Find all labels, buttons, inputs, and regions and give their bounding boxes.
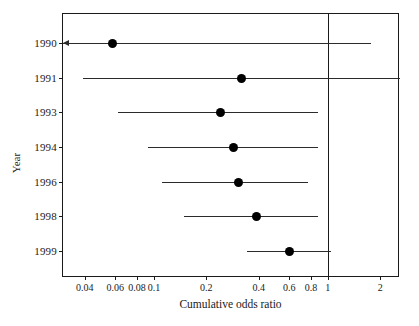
x-axis-tick xyxy=(115,276,116,280)
x-axis-tick xyxy=(85,276,86,280)
odds-ratio-point-marker xyxy=(285,247,294,256)
y-axis-tick-label: 1991 xyxy=(34,72,57,84)
y-axis-tick xyxy=(59,112,63,113)
x-axis-tick-label: 0.2 xyxy=(200,282,213,293)
x-axis-title: Cumulative odds ratio xyxy=(62,298,399,310)
x-axis-tick xyxy=(380,276,381,280)
x-axis-tick xyxy=(137,276,138,280)
x-axis-tick xyxy=(154,276,155,280)
forest-plot-figure: Year 1990199119931994199619981999 0.040.… xyxy=(0,0,419,326)
y-axis-title: Year xyxy=(10,153,22,173)
x-axis-tick-label: 0.04 xyxy=(76,282,94,293)
y-axis-tick xyxy=(59,78,63,79)
x-axis-tick-label: 1 xyxy=(325,282,330,293)
y-axis-tick xyxy=(59,147,63,148)
x-axis-tick-label: 0.1 xyxy=(148,282,161,293)
odds-ratio-point-marker xyxy=(108,39,117,48)
y-axis-tick-label: 1993 xyxy=(34,106,57,118)
confidence-interval-line xyxy=(184,216,319,217)
x-axis-tick xyxy=(311,276,312,280)
y-axis-tick xyxy=(59,251,63,252)
y-axis-tick xyxy=(59,216,63,217)
odds-ratio-point-marker xyxy=(234,178,243,187)
odds-ratio-point-marker xyxy=(229,143,238,152)
y-axis-tick-label: 1996 xyxy=(34,176,57,188)
y-axis-tick xyxy=(59,182,63,183)
x-axis-tick xyxy=(289,276,290,280)
x-axis-tick-label: 0.06 xyxy=(107,282,125,293)
x-axis-tick-label: 0.08 xyxy=(128,282,146,293)
y-axis-tick-label: 1994 xyxy=(34,141,57,153)
null-reference-line xyxy=(328,14,329,276)
x-axis-tick xyxy=(206,276,207,280)
x-axis-tick-label: 0.8 xyxy=(305,282,318,293)
x-axis-tick-label: 0.6 xyxy=(283,282,296,293)
y-axis-tick-label: 1998 xyxy=(34,210,57,222)
x-axis-tick xyxy=(259,276,260,280)
y-axis-tick xyxy=(59,43,63,44)
odds-ratio-point-marker xyxy=(216,108,225,117)
ci-truncation-arrow-icon xyxy=(63,40,69,46)
x-axis-tick-label: 2 xyxy=(378,282,383,293)
x-axis-tick-label: 0.4 xyxy=(252,282,265,293)
odds-ratio-point-marker xyxy=(252,212,261,221)
odds-ratio-point-marker xyxy=(237,74,246,83)
x-axis-tick xyxy=(328,276,329,280)
plot-area: 1990199119931994199619981999 0.040.060.0… xyxy=(62,13,399,277)
y-axis-tick-label: 1999 xyxy=(34,245,57,257)
y-axis-tick-label: 1990 xyxy=(34,37,57,49)
